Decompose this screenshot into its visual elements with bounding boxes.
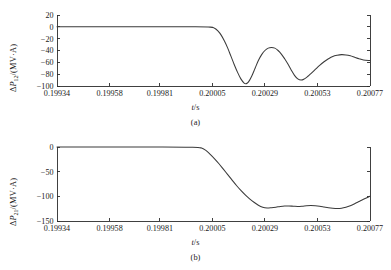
y-tick-label: 0 [49, 143, 53, 152]
axes-a [57, 15, 370, 86]
x-axis-label-a: t/s [0, 104, 391, 112]
x-tick-label: 0.20077 [357, 224, 383, 233]
y-tick-label: 20 [45, 11, 53, 20]
panel-caption-b: (b) [0, 254, 391, 262]
y-tick-labels-b: 0−50−100−150 [37, 143, 54, 226]
figure-container: ΔP12/(MV·A) 0.199340.199580.199810.20005… [0, 0, 391, 270]
x-tick-label: 0.20005 [199, 89, 225, 98]
x-tick-label: 0.20077 [357, 89, 383, 98]
x-tick-labels-a: 0.199340.199580.199810.200050.200290.200… [44, 89, 383, 98]
y-tick-label: −20 [41, 35, 54, 44]
x-tick-label: 0.20053 [304, 89, 330, 98]
x-tick-label: 0.19981 [147, 89, 173, 98]
y-tick-labels-a: 200−20−40−60−80−100 [37, 11, 54, 91]
x-tick-label: 0.19958 [96, 89, 122, 98]
y-tick-label: 0 [49, 23, 53, 32]
data-curve-b [57, 147, 370, 208]
y-tick-label: −100 [37, 82, 54, 91]
x-tick-label: 0.19981 [147, 224, 173, 233]
chart-panel-b: ΔP21/(MV·A) 0.199340.199580.199810.20005… [0, 133, 391, 270]
y-tick-label: −40 [41, 46, 54, 55]
plot-area-a: 0.199340.199580.199810.200050.200290.200… [0, 0, 391, 100]
chart-panel-a: ΔP12/(MV·A) 0.199340.199580.199810.20005… [0, 0, 391, 135]
x-tick-label: 0.20029 [252, 89, 278, 98]
panel-caption-a: (a) [0, 119, 391, 127]
y-tick-label: −100 [37, 192, 54, 201]
y-tick-label: −60 [41, 58, 54, 67]
x-tick-labels-b: 0.199340.199580.199810.200050.200290.200… [44, 224, 383, 233]
plot-area-b: 0.199340.199580.199810.200050.200290.200… [0, 133, 391, 235]
y-tick-label: −150 [37, 217, 54, 226]
y-tick-label: −80 [41, 70, 54, 79]
x-tick-label: 0.20029 [252, 224, 278, 233]
data-curve-a [57, 27, 370, 84]
x-axis-label-b: t/s [0, 239, 391, 247]
x-tick-label: 0.20005 [199, 224, 225, 233]
tick-marks-a [57, 15, 370, 86]
y-tick-label: −50 [41, 168, 54, 177]
x-tick-label: 0.19958 [96, 224, 122, 233]
x-tick-label: 0.20053 [304, 224, 330, 233]
